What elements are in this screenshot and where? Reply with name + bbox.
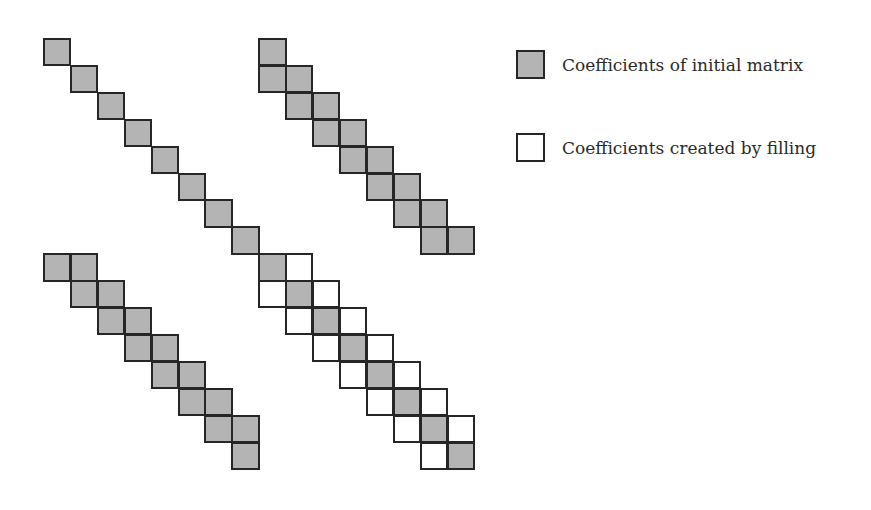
matrix-cell-fill	[312, 334, 340, 362]
matrix-cell-initial	[97, 307, 125, 335]
matrix-cell-initial	[124, 307, 152, 335]
matrix-cell-initial	[204, 388, 232, 416]
matrix-cell-initial	[70, 280, 98, 308]
matrix-cell-initial	[339, 146, 367, 174]
matrix-cell-initial	[178, 361, 206, 389]
matrix-cell-initial	[151, 334, 179, 362]
matrix-cell-initial	[97, 92, 125, 120]
matrix-cell-fill	[339, 361, 367, 389]
matrix-cell-fill	[393, 361, 421, 389]
legend-swatch-initial	[516, 50, 545, 79]
matrix-cell-initial	[151, 146, 179, 174]
matrix-cell-initial	[124, 334, 152, 362]
matrix-cell-initial	[366, 173, 394, 201]
matrix-cell-fill	[366, 334, 394, 362]
matrix-cell-initial	[447, 226, 475, 254]
matrix-cell-initial	[366, 146, 394, 174]
matrix-cell-initial	[178, 173, 206, 201]
matrix-cell-initial	[97, 280, 125, 308]
matrix-cell-initial	[393, 173, 421, 201]
matrix-cell-initial	[204, 199, 232, 227]
legend-label-fill: Coefficients created by filling	[562, 138, 816, 158]
matrix-cell-fill	[447, 415, 475, 443]
matrix-cell-initial	[151, 361, 179, 389]
matrix-cell-initial	[285, 92, 313, 120]
matrix-cell-initial	[420, 226, 448, 254]
matrix-cell-initial	[43, 38, 71, 66]
matrix-cell-initial	[339, 334, 367, 362]
matrix-cell-fill	[366, 388, 394, 416]
matrix-cell-initial	[312, 119, 340, 147]
legend-item-initial: Coefficients of initial matrix	[516, 50, 803, 79]
matrix-cell-initial	[258, 253, 286, 281]
matrix-cell-initial	[420, 415, 448, 443]
legend-label-initial: Coefficients of initial matrix	[562, 55, 803, 75]
matrix-cell-fill	[258, 280, 286, 308]
legend-item-fill: Coefficients created by filling	[516, 133, 816, 162]
matrix-cell-initial	[420, 199, 448, 227]
matrix-cell-fill	[312, 280, 340, 308]
matrix-cell-fill	[285, 253, 313, 281]
matrix-cell-initial	[70, 253, 98, 281]
matrix-cell-initial	[204, 415, 232, 443]
matrix-cell-initial	[231, 442, 259, 470]
matrix-cell-fill	[420, 442, 448, 470]
matrix-cell-initial	[339, 119, 367, 147]
matrix-cell-initial	[285, 280, 313, 308]
matrix-cell-initial	[312, 92, 340, 120]
matrix-cell-initial	[70, 65, 98, 93]
matrix-cell-fill	[420, 388, 448, 416]
matrix-cell-initial	[231, 226, 259, 254]
matrix-cell-initial	[258, 38, 286, 66]
matrix-cell-initial	[258, 65, 286, 93]
matrix-cell-initial	[43, 253, 71, 281]
matrix-cell-initial	[124, 119, 152, 147]
matrix-cell-initial	[393, 199, 421, 227]
legend-swatch-fill	[516, 133, 545, 162]
matrix-cell-initial	[447, 442, 475, 470]
matrix-cell-fill	[339, 307, 367, 335]
matrix-cell-fill	[393, 415, 421, 443]
matrix-cell-initial	[393, 388, 421, 416]
matrix-cell-fill	[285, 307, 313, 335]
matrix-cell-initial	[312, 307, 340, 335]
matrix-cell-initial	[366, 361, 394, 389]
matrix-cell-initial	[178, 388, 206, 416]
matrix-cell-initial	[231, 415, 259, 443]
matrix-cell-initial	[285, 65, 313, 93]
